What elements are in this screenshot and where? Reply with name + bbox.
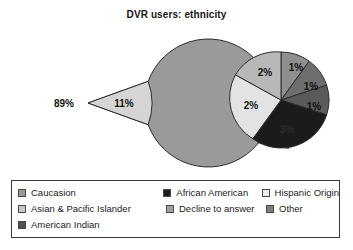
detail-slice-label-american-indian: 1%	[307, 101, 322, 112]
legend-label: African American	[176, 188, 248, 198]
legend-item-asian-pacific-islander[interactable]: Asian & Pacific Islander	[18, 201, 166, 217]
legend-item-other[interactable]: Other	[266, 201, 303, 217]
detail-slice-label-asian: 2%	[258, 67, 273, 78]
legend-swatch-icon	[262, 189, 270, 197]
legend-row: Asian & Pacific Islander Decline to answ…	[12, 201, 339, 217]
legend-label: Other	[279, 204, 303, 214]
detail-slice-label-decline: 1%	[304, 81, 319, 92]
legend-swatch-icon	[18, 189, 26, 197]
legend-label: Decline to answer	[179, 204, 255, 214]
legend-row: American Indian	[12, 217, 339, 233]
legend-item-american-indian[interactable]: American Indian	[18, 217, 166, 233]
chart-legend: Caucasion African American Hispanic Orig…	[11, 180, 340, 238]
detail-slice-label-other: 1%	[289, 62, 304, 73]
main-slice-label-11: 11%	[114, 98, 134, 109]
legend-swatch-icon	[18, 221, 26, 229]
legend-item-decline-to-answer[interactable]: Decline to answer	[166, 201, 266, 217]
main-slice-label-89: 89%	[54, 98, 74, 109]
legend-label: Asian & Pacific Islander	[31, 204, 131, 214]
detail-slice-label-african-american: 3%	[280, 124, 295, 135]
legend-swatch-icon	[18, 205, 26, 213]
legend-swatch-icon	[166, 205, 174, 213]
legend-swatch-icon	[266, 205, 274, 213]
legend-label: Hispanic Origin	[275, 188, 339, 198]
legend-item-caucasion[interactable]: Caucasion	[18, 185, 163, 201]
detail-slice-label-hispanic: 2%	[244, 100, 259, 111]
legend-label: Caucasion	[31, 188, 76, 198]
legend-item-hispanic-origin[interactable]: Hispanic Origin	[262, 185, 339, 201]
chart-figure: DVR users: ethnicity 89% 11%	[0, 0, 353, 250]
legend-swatch-icon	[163, 189, 171, 197]
legend-row: Caucasion African American Hispanic Orig…	[12, 185, 339, 201]
legend-item-african-american[interactable]: African American	[163, 185, 261, 201]
legend-label: American Indian	[31, 220, 100, 230]
